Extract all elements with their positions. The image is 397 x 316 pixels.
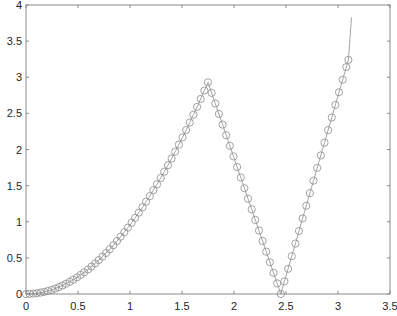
- y-tick-label: 0: [16, 288, 22, 300]
- x-tick-label: 2.5: [278, 300, 293, 312]
- plot-background: [26, 5, 390, 294]
- x-tick-label: 1: [127, 300, 133, 312]
- y-tick-label: 0.5: [7, 252, 22, 264]
- y-tick-label: 2.5: [7, 107, 22, 119]
- x-tick-label: 2: [231, 300, 237, 312]
- y-tick-label: 3: [16, 71, 22, 83]
- x-tick-label: 0.5: [70, 300, 85, 312]
- x-tick-label: 0: [23, 300, 29, 312]
- line-chart: 00.511.522.533.5 00.511.522.533.54: [0, 0, 397, 316]
- y-tick-label: 3.5: [7, 35, 22, 47]
- y-tick-label: 2: [16, 144, 22, 156]
- x-tick-label: 1.5: [174, 300, 189, 312]
- x-tick-label: 3.5: [382, 300, 397, 312]
- y-tick-label: 1: [16, 216, 22, 228]
- x-tick-label: 3: [335, 300, 341, 312]
- y-tick-label: 4: [16, 0, 22, 11]
- y-tick-label: 1.5: [7, 180, 22, 192]
